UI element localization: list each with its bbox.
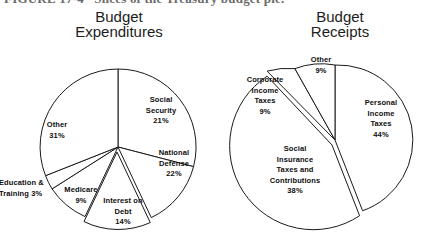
label-national-defense-line1: National xyxy=(142,148,206,159)
label-medicare-line1: Medicare xyxy=(55,185,107,196)
label-corporate-income-taxes-line2: Income xyxy=(241,86,289,97)
label-education-training-line1: Education & xyxy=(0,178,61,189)
label-social-insurance-line3: Taxes and xyxy=(259,165,331,176)
label-personal-income-taxes-value: 44% xyxy=(352,130,410,141)
label-other-expenditures-line1: Other xyxy=(33,120,81,131)
label-corporate-income-taxes: Corporate Income Taxes 9% xyxy=(241,75,289,117)
label-other-expenditures-value: 31% xyxy=(33,131,81,142)
label-personal-income-taxes-line3: Taxes xyxy=(352,119,410,130)
figure-container: FIGURE 17-4 Slices of the Treasury budge… xyxy=(0,0,421,238)
label-social-security-value: 21% xyxy=(131,116,191,127)
label-corporate-income-taxes-value: 9% xyxy=(241,107,289,118)
figure-caption-label: FIGURE 17-4 xyxy=(4,0,84,6)
label-social-insurance-line2: Insurance xyxy=(259,155,331,166)
label-social-insurance-line4: Contributions xyxy=(259,176,331,187)
label-other-receipts-value: 9% xyxy=(305,66,337,77)
label-national-defense-value: 22% xyxy=(142,169,206,180)
label-interest-on-debt-line2: Debt xyxy=(92,207,154,218)
label-personal-income-taxes-line2: Income xyxy=(352,109,410,120)
label-social-insurance-line1: Social xyxy=(259,144,331,155)
figure-caption-text: Slices of the Treasury budget pie. xyxy=(94,0,284,6)
label-education-training: Education & Training 3% xyxy=(0,178,61,199)
label-social-insurance-value: 38% xyxy=(259,186,331,197)
label-medicare: Medicare 9% xyxy=(55,185,107,206)
label-education-training-line2: Training 3% xyxy=(0,189,61,200)
label-personal-income-taxes: Personal Income Taxes 44% xyxy=(352,98,410,140)
label-national-defense-line2: Defense xyxy=(142,159,206,170)
label-personal-income-taxes-line1: Personal xyxy=(352,98,410,109)
label-social-security-line2: Security xyxy=(131,106,191,117)
label-national-defense: National Defense 22% xyxy=(142,148,206,180)
label-interest-on-debt-value: 14% xyxy=(92,217,154,228)
label-corporate-income-taxes-line3: Taxes xyxy=(241,96,289,107)
label-corporate-income-taxes-line1: Corporate xyxy=(241,75,289,86)
label-other-receipts-line1: Other xyxy=(305,55,337,66)
label-social-security: Social Security 21% xyxy=(131,95,191,127)
figure-caption: FIGURE 17-4 Slices of the Treasury budge… xyxy=(4,0,284,7)
label-other-receipts: Other 9% xyxy=(305,55,337,76)
label-other-expenditures: Other 31% xyxy=(33,120,81,141)
label-social-security-line1: Social xyxy=(131,95,191,106)
figure-caption-clip: FIGURE 17-4 Slices of the Treasury budge… xyxy=(0,0,421,8)
label-social-insurance: Social Insurance Taxes and Contributions… xyxy=(259,144,331,197)
label-medicare-value: 9% xyxy=(55,196,107,207)
